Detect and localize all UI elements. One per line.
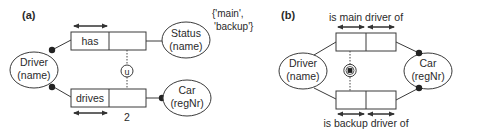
status-refmode: (name) xyxy=(169,40,202,52)
driver-entity-b[interactable]: Driver (name) xyxy=(279,53,327,89)
main-driver-reading: is main driver of xyxy=(329,11,403,23)
value-constraint-line1: {'main', xyxy=(212,8,244,19)
mandatory-dot-car-backup xyxy=(416,85,422,91)
car-name-a: Car xyxy=(179,84,196,96)
car-entity-b[interactable]: Car (regNr) xyxy=(404,53,452,89)
frequency-constraint: 2 xyxy=(124,111,130,123)
driver-name-b: Driver xyxy=(289,57,318,69)
exclusion-cross-icon xyxy=(348,68,353,73)
mandatory-dot-drives xyxy=(49,84,55,90)
mandatory-dot-car-main xyxy=(416,50,422,56)
driver-refmode-a: (name) xyxy=(17,69,50,81)
backup-driver-reading: is backup driver of xyxy=(323,117,408,129)
exclusive-or-constraint[interactable] xyxy=(344,64,356,76)
panel-b: (b) is main driver of Driver (name) xyxy=(279,9,452,129)
car-refmode-a: (regNr) xyxy=(170,97,203,109)
orm-diagram: (a) has Status (name) {'main', 'backup'}… xyxy=(0,0,479,140)
status-entity[interactable]: Status (name) xyxy=(162,22,210,58)
has-fact-type[interactable]: has xyxy=(71,32,146,50)
status-name: Status xyxy=(171,27,201,39)
drives-reading: drives xyxy=(76,92,104,104)
panel-b-label: (b) xyxy=(281,9,295,21)
backup-driver-fact-type[interactable] xyxy=(336,91,396,109)
driver-entity-a[interactable]: Driver (name) xyxy=(10,52,58,88)
value-constraint-line2: 'backup'} xyxy=(214,21,254,32)
subset-symbol: u xyxy=(124,67,129,77)
panel-a: (a) has Status (name) {'main', 'backup'}… xyxy=(10,8,254,123)
car-refmode-b: (regNr) xyxy=(411,70,444,82)
mandatory-dot-has xyxy=(49,47,55,53)
car-entity-a[interactable]: Car (regNr) xyxy=(163,80,211,116)
driver-refmode-b: (name) xyxy=(286,70,319,82)
main-driver-fact-type[interactable] xyxy=(336,33,396,51)
subset-constraint[interactable]: u xyxy=(121,65,133,77)
car-name-b: Car xyxy=(420,57,437,69)
driver-name-a: Driver xyxy=(20,56,49,68)
drives-fact-type[interactable]: drives xyxy=(71,89,146,107)
has-reading: has xyxy=(82,35,99,47)
panel-a-label: (a) xyxy=(22,9,36,21)
